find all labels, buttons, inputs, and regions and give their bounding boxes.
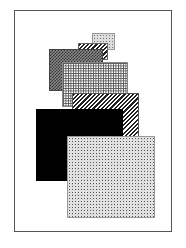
large-speckled-rect	[67, 136, 155, 218]
